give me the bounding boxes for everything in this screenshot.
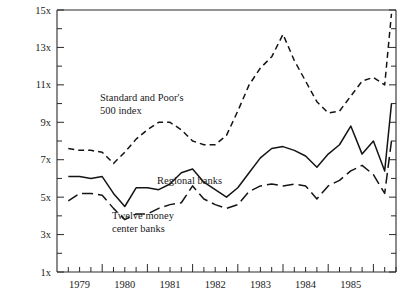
x-axis-label: 1979 bbox=[69, 279, 90, 290]
sp500-label: Standard and Poor's bbox=[100, 92, 184, 103]
series-long-dashed bbox=[68, 141, 391, 220]
x-axis-label: 1983 bbox=[250, 279, 271, 290]
y-axis-tick-labels: 1x3x5x7x9x11x13x15x bbox=[35, 5, 52, 278]
x-axis-label: 1980 bbox=[114, 279, 135, 290]
x-axis-label: 1984 bbox=[295, 279, 317, 290]
series-dashed bbox=[68, 14, 391, 164]
axis-ticks bbox=[57, 10, 396, 272]
sp500-label: 500 index bbox=[100, 105, 142, 116]
line-chart: 1x3x5x7x9x11x13x15x 19791980198119821983… bbox=[0, 0, 404, 299]
chart-series bbox=[68, 14, 391, 220]
chart-annotations: Standard and Poor's500 indexRegional ban… bbox=[100, 92, 222, 234]
y-axis-label: 5x bbox=[41, 192, 52, 203]
series-solid bbox=[68, 104, 391, 207]
x-axis-tick-labels: 1979198019811982198319841985 bbox=[69, 279, 361, 290]
y-axis-label: 1x bbox=[41, 267, 52, 278]
chart-axes bbox=[57, 10, 396, 272]
y-axis-label: 15x bbox=[35, 5, 52, 16]
y-axis-label: 7x bbox=[41, 154, 52, 165]
y-axis-label: 3x bbox=[41, 229, 52, 240]
y-axis-label: 11x bbox=[36, 79, 52, 90]
regional-banks-label: Regional banks bbox=[157, 175, 222, 186]
y-axis-label: 9x bbox=[41, 117, 52, 128]
x-axis-label: 1985 bbox=[340, 279, 361, 290]
money-center-label: Twelve money bbox=[112, 210, 175, 221]
chart-container: 1x3x5x7x9x11x13x15x 19791980198119821983… bbox=[0, 0, 404, 299]
y-axis-label: 13x bbox=[35, 42, 52, 53]
money-center-label: center banks bbox=[112, 223, 165, 234]
x-axis-label: 1981 bbox=[160, 279, 181, 290]
x-axis-label: 1982 bbox=[205, 279, 226, 290]
